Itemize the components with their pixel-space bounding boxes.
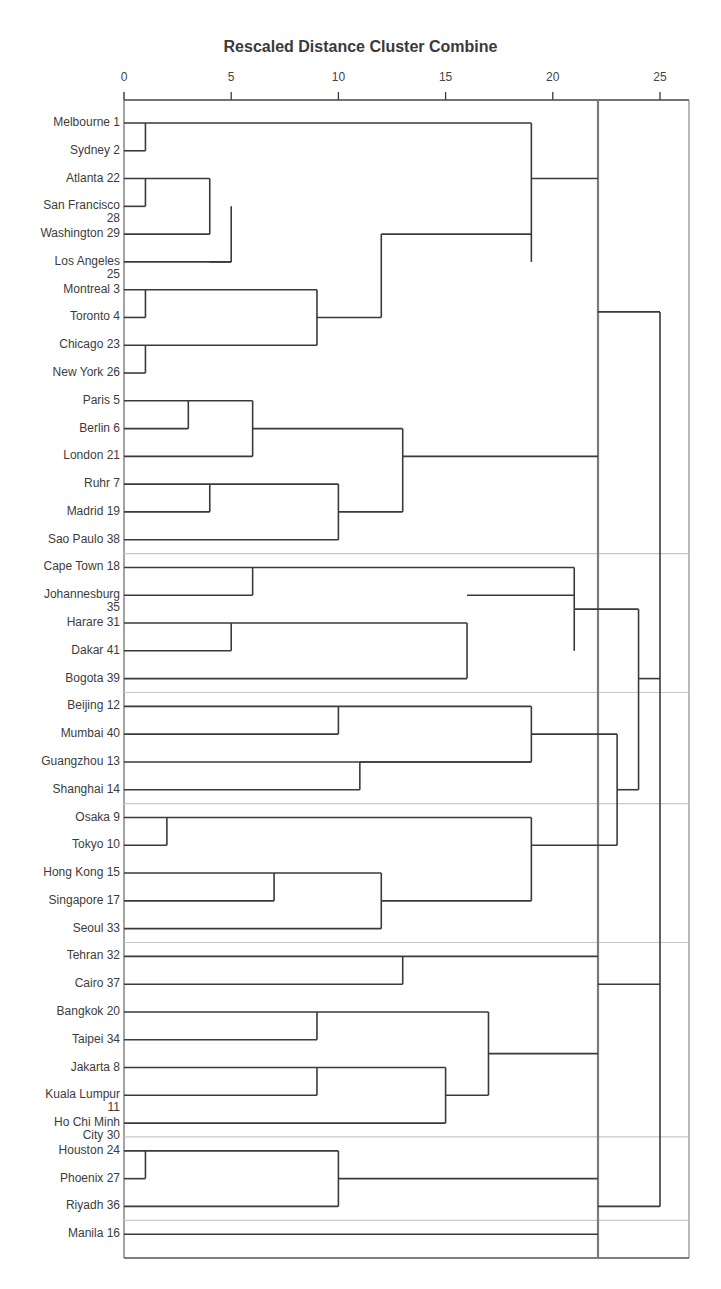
dendrogram-plot [0, 0, 721, 1289]
